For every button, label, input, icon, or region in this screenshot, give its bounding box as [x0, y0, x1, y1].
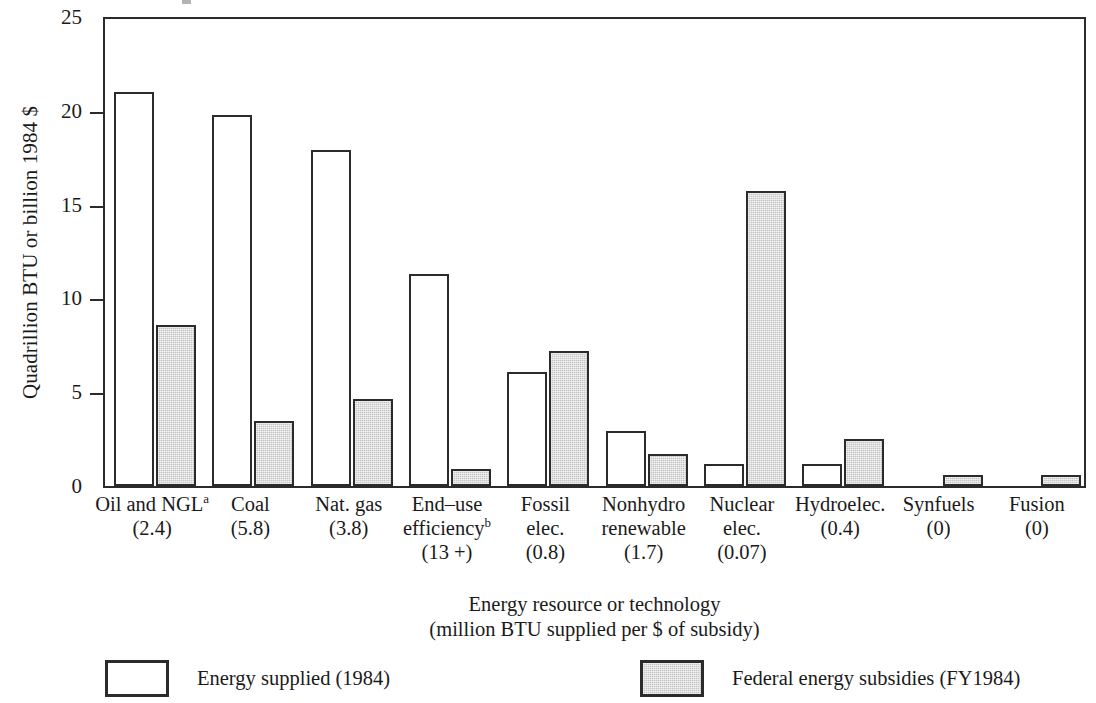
y-axis-tick-label: 5	[24, 382, 82, 403]
bar-energy-supplied	[507, 372, 547, 486]
category-label-line: (0)	[956, 517, 1096, 541]
bar-energy-supplied	[409, 274, 449, 486]
bar-federal-subsidy	[549, 351, 589, 486]
x-axis-title-line1: Energy resource or technology	[103, 592, 1086, 617]
y-axis-tick	[90, 112, 103, 114]
legend: Energy supplied (1984)Federal energy sub…	[0, 660, 1096, 703]
legend-label: Federal energy subsidies (FY1984)	[732, 667, 1020, 690]
y-axis-tick-label: 10	[24, 288, 82, 309]
figure: Quadrillion BTU or billion 1984 $ 051015…	[0, 0, 1096, 703]
bar-federal-subsidy	[1041, 475, 1081, 486]
plot-inner	[105, 19, 1084, 486]
scan-artifact	[182, 0, 191, 4]
category-label-line: (0.07)	[661, 541, 822, 565]
legend-item-energy-supplied: Energy supplied (1984)	[105, 660, 390, 697]
category-label-line: Fusion	[956, 493, 1096, 517]
plot-area	[103, 17, 1086, 488]
bar-federal-subsidy	[746, 191, 786, 486]
bar-energy-supplied	[606, 431, 646, 486]
y-axis-tick	[90, 393, 103, 395]
y-axis-tick-label: 20	[24, 101, 82, 122]
bar-federal-subsidy	[451, 469, 491, 486]
y-axis-tick-label: 25	[24, 7, 82, 28]
legend-label: Energy supplied (1984)	[197, 667, 390, 690]
legend-item-federal-subsidies: Federal energy subsidies (FY1984)	[640, 660, 1020, 697]
bar-federal-subsidy	[254, 421, 294, 486]
y-axis-tick	[90, 206, 103, 208]
y-axis-title: Quadrillion BTU or billion 1984 $	[18, 18, 43, 488]
x-axis-title: Energy resource or technology (million B…	[103, 592, 1086, 641]
bar-federal-subsidy	[943, 475, 983, 486]
bar-energy-supplied	[212, 115, 252, 486]
x-axis-title-line2: (million BTU supplied per $ of subsidy)	[103, 617, 1086, 642]
legend-swatch-gray-rectangle	[640, 660, 704, 697]
bar-energy-supplied	[311, 150, 351, 486]
legend-swatch-white-rectangle	[105, 660, 169, 697]
bar-energy-supplied	[704, 464, 744, 486]
bar-federal-subsidy	[156, 325, 196, 486]
bar-federal-subsidy	[353, 399, 393, 486]
bar-federal-subsidy	[648, 454, 688, 486]
bar-energy-supplied	[802, 464, 842, 486]
y-axis-tick	[90, 299, 103, 301]
y-axis-tick-label: 15	[24, 195, 82, 216]
bar-energy-supplied	[114, 92, 154, 486]
x-axis-category-label: Fusion(0)	[956, 493, 1096, 541]
bar-federal-subsidy	[844, 439, 884, 486]
x-axis-category-labels: Oil and NGLa(2.4)Coal(5.8)Nat. gas(3.8)E…	[103, 493, 1086, 588]
